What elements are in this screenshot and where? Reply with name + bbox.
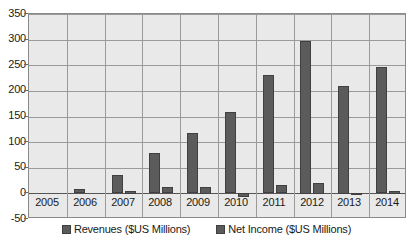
gridline-vertical (256, 14, 257, 217)
bar (313, 183, 324, 194)
y-tick-label: 250 (0, 59, 26, 70)
x-tick-label: 2010 (217, 196, 255, 209)
bar (376, 67, 387, 193)
bar (112, 175, 123, 193)
gridline-horizontal (29, 40, 405, 41)
bar (300, 41, 311, 194)
gridline-vertical (218, 14, 219, 217)
x-tick-label: 2007 (104, 196, 142, 209)
bar (74, 189, 85, 193)
x-tick-label: 2014 (368, 196, 406, 209)
gridline-vertical (105, 14, 106, 217)
bar-chart: -50050100150200250300350 200520062007200… (0, 0, 413, 240)
bar (351, 193, 362, 195)
bar (200, 187, 211, 194)
gridline-vertical (180, 14, 181, 217)
legend-label-revenues: Revenues ($US Millions) (74, 223, 190, 235)
gridline-vertical (369, 14, 370, 217)
legend-swatch-net-income (216, 225, 225, 234)
y-tick-label: 300 (0, 33, 26, 44)
legend-swatch-revenues (62, 225, 71, 234)
bar (125, 191, 136, 194)
gridline-vertical (142, 14, 143, 217)
y-tick-label: 150 (0, 110, 26, 121)
bar (263, 75, 274, 193)
legend-item-net-income: Net Income ($US Millions) (216, 223, 351, 235)
x-tick-label: 2011 (255, 196, 293, 209)
bar (187, 133, 198, 193)
x-tick-label: 2013 (330, 196, 368, 209)
x-tick-label: 2005 (28, 196, 66, 209)
y-tick-label: 0 (0, 187, 26, 198)
y-tick-label: 350 (0, 8, 26, 19)
y-tick-label: 100 (0, 136, 26, 147)
legend-label-net-income: Net Income ($US Millions) (228, 223, 351, 235)
legend-item-revenues: Revenues ($US Millions) (62, 223, 190, 235)
plot-area (28, 13, 406, 218)
gridline-vertical (294, 14, 295, 217)
bar (389, 191, 400, 194)
y-axis: -50050100150200250300350 (0, 0, 26, 240)
gridline-horizontal (29, 65, 405, 66)
y-tick-mark (24, 218, 28, 219)
chart-legend: Revenues ($US Millions) Net Income ($US … (0, 220, 413, 238)
x-tick-label: 2012 (293, 196, 331, 209)
gridline-horizontal (29, 14, 405, 15)
x-axis: 2005200620072008200920102011201220132014 (28, 196, 406, 214)
bar (149, 153, 160, 193)
y-tick-label: 50 (0, 161, 26, 172)
x-tick-label: 2009 (179, 196, 217, 209)
x-tick-label: 2008 (141, 196, 179, 209)
bar (162, 187, 173, 193)
bar (225, 112, 236, 193)
gridline-vertical (67, 14, 68, 217)
x-tick-label: 2006 (66, 196, 104, 209)
bar (276, 185, 287, 193)
gridline-vertical (331, 14, 332, 217)
bar (338, 86, 349, 194)
y-tick-label: 200 (0, 84, 26, 95)
